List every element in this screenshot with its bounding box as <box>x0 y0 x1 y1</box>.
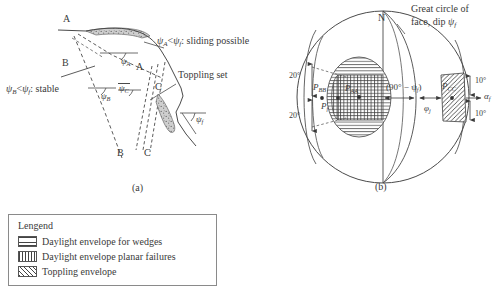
panel-b-drawing <box>297 11 481 183</box>
P-f-sub: f <box>327 105 329 112</box>
set-label-C-upper: C <box>155 82 162 92</box>
stable-note: ψB<ψf: stable <box>6 84 59 96</box>
pole-label-P-f: Pf <box>321 102 328 112</box>
set-label-B-upper: B <box>62 58 69 68</box>
set-C-plane-1 <box>136 66 152 150</box>
psi-A-sub: A <box>127 60 131 67</box>
pole-label-P-BB: PBB <box>313 83 326 93</box>
pole-point-P-CC-dot <box>450 96 454 100</box>
angle-marker-10deg-upper: 10° <box>475 77 486 85</box>
north-label: N <box>378 13 385 23</box>
set-label-C-lower: C <box>144 148 151 158</box>
hatch-vertical-swatch-icon <box>18 251 37 262</box>
alpha-f-sub: f <box>489 95 491 102</box>
great-circle-note-line1: Great circle of <box>411 4 469 14</box>
small-circle-left-outer <box>304 30 316 164</box>
dim-label-phi-j: φj <box>424 104 431 114</box>
legend-item-daylight-wedges: Daylight envelope for wedges <box>18 235 162 248</box>
pole-point-P-AA-dot <box>357 95 361 99</box>
figure-root: A A B B C C ψA ψB ψC ψf ψA<ψf: sliding p… <box>0 0 503 293</box>
set-B-plane <box>74 36 122 158</box>
set-C-plane-2 <box>143 64 158 150</box>
angle-label-psi-C: ψC <box>118 83 130 94</box>
angle-label-psi-f: ψf <box>196 115 203 125</box>
set-label-A-lower: A <box>136 62 143 72</box>
psi-f-arc <box>191 113 195 121</box>
phi-j-sub: j <box>429 107 431 114</box>
slope-face-lower <box>176 78 196 146</box>
panel-b-caption: (b) <box>375 182 387 192</box>
set-A-plane-secondary <box>72 38 104 58</box>
pole-label-P-CC: PCC <box>442 82 456 92</box>
sliding-possible-note: ψA<ψf: sliding possible <box>157 36 249 48</box>
angle-marker-20deg-lower: 20° <box>289 112 300 120</box>
set-label-A-upper: A <box>63 14 70 24</box>
stable-note-text: : stable <box>30 83 59 94</box>
great-circle-note-prefix: face, dip <box>411 16 448 27</box>
great-circle-psi-sub: f <box>454 21 456 29</box>
P-CC-sub: CC <box>448 85 456 92</box>
set-A-plane <box>78 34 162 78</box>
dim-label-90-minus-psi-f: (90° − ψf) <box>386 83 422 93</box>
panel-a-caption: (a) <box>132 183 143 193</box>
angle-marker-20deg-upper: 20° <box>289 72 300 80</box>
pole-label-P-AA: PAA <box>345 84 358 94</box>
P-AA-sub: AA <box>351 87 359 94</box>
toe-debris-mass <box>156 94 175 133</box>
psi-B-sub: B <box>107 95 111 102</box>
great-circle-note-line2: face, dip ψf <box>411 17 456 29</box>
legend-label-toppling: Toppling envelope <box>42 266 117 277</box>
sliding-note-text: : sliding possible <box>181 35 249 46</box>
legend-item-daylight-planar: Daylight envelope planar failures <box>18 250 176 263</box>
legend-label-daylight-wedges: Daylight envelope for wedges <box>42 236 162 247</box>
pole-point-P-f <box>320 96 324 100</box>
angle-label-psi-B: ψB <box>101 92 110 102</box>
toppling-set-note: Toppling set <box>178 70 228 80</box>
hatch-horizontal-swatch-icon <box>18 236 37 247</box>
legend-title: Lengend <box>18 220 53 231</box>
dim-label-alpha-f: αf <box>484 92 490 102</box>
dim-90-tail: ) <box>419 82 422 92</box>
pole-point-P-BB-dot <box>336 96 340 100</box>
hatch-diagonal-swatch-icon <box>18 266 37 277</box>
dim-90-text: (90° − ψ <box>386 82 417 92</box>
P-BB-sub: BB <box>319 86 327 93</box>
legend-label-daylight-planar: Daylight envelope planar failures <box>42 251 176 262</box>
angle-label-psi-A: ψA <box>121 57 130 67</box>
legend-item-toppling: Toppling envelope <box>18 265 117 278</box>
angle-marker-10deg-lower: 10° <box>475 110 486 118</box>
psi-C-sub: C <box>125 87 129 94</box>
psi-f-sub: f <box>202 118 204 125</box>
legend-box: Lengend Daylight envelope for wedges Day… <box>8 214 217 286</box>
set-label-B-lower: B <box>117 148 124 158</box>
